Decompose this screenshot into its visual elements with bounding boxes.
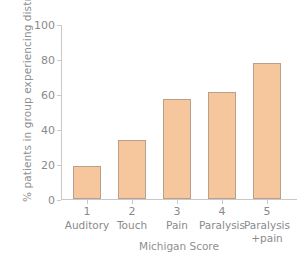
y-tick-label: 20	[15, 159, 55, 172]
x-tick-mark-5	[267, 200, 268, 204]
y-tick-mark	[57, 130, 61, 131]
y-tick-label: 60	[15, 89, 55, 102]
bar-chart-figure: % patients in group experiencing distres…	[0, 0, 308, 265]
x-tick-mark-3	[177, 200, 178, 204]
y-tick-mark	[57, 200, 61, 201]
y-tick-mark	[57, 95, 61, 96]
bar-5	[253, 63, 281, 199]
bar-3	[163, 99, 191, 199]
y-tick-label: 100	[15, 19, 55, 32]
x-tick-mark-4	[222, 200, 223, 204]
y-axis-title: % patients in group experiencing distres…	[18, 2, 36, 202]
x-tick-mark-1	[87, 200, 88, 204]
x-tick-mark-2	[132, 200, 133, 204]
x-tick-number: 5	[224, 205, 308, 219]
x-axis-line	[61, 199, 297, 200]
y-tick-mark	[57, 165, 61, 166]
x-axis-title: Michigan Score	[61, 240, 297, 252]
y-tick-label: 80	[15, 54, 55, 67]
bar-1	[73, 166, 101, 199]
y-tick-mark	[57, 60, 61, 61]
bar-4	[208, 92, 236, 199]
y-tick-mark	[57, 25, 61, 26]
plot-area: 0 20 40 60 80 100	[61, 25, 297, 200]
y-tick-label: 40	[15, 124, 55, 137]
x-tick-group-5: 5 Paralysis +pain	[224, 205, 308, 245]
y-axis-line	[61, 25, 62, 200]
bar-2	[118, 140, 146, 199]
